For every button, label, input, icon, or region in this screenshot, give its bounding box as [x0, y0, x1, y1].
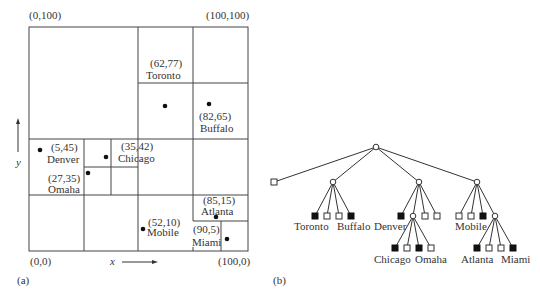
leaf-miami — [510, 245, 516, 251]
label-atlanta: Atlanta — [201, 205, 233, 217]
tree-label-buffalo: Buffalo — [337, 220, 371, 232]
label-denver: Denver — [47, 153, 80, 165]
node-sw — [416, 179, 422, 185]
point-toronto — [163, 104, 168, 109]
label-omaha: Omaha — [48, 183, 80, 195]
point-denver — [38, 148, 43, 153]
label-buffalo: Buffalo — [200, 122, 234, 134]
label-miami: Miami — [192, 236, 221, 248]
corner-bottom-right: (100,0) — [218, 255, 250, 268]
y-axis-arrowhead-icon — [16, 118, 20, 124]
leaf-omaha — [416, 245, 422, 251]
label-toronto: Toronto — [146, 69, 181, 81]
point-chicago — [104, 155, 109, 160]
node-se-ne — [492, 213, 498, 219]
tree-label-mobile: Mobile — [455, 220, 487, 232]
x-axis-label: x — [109, 255, 115, 267]
caption-b: (b) — [273, 274, 286, 287]
tree-edges — [274, 147, 513, 248]
node-ne — [330, 179, 336, 185]
node-root — [373, 144, 379, 150]
label-mobile: Mobile — [147, 226, 179, 238]
point-mobile — [141, 227, 146, 232]
label-chicago: Chicago — [118, 152, 155, 164]
node-sw-ne — [410, 213, 416, 219]
caption-a: (a) — [17, 274, 30, 287]
tree-empty-leaves — [271, 179, 504, 251]
city-labels: (62,77) Toronto (82,65) Buffalo (5,45) D… — [47, 57, 235, 248]
leaf-atlanta — [474, 245, 480, 251]
coords-miami: (90,5) — [193, 223, 220, 236]
corner-top-left: (0,100) — [29, 9, 61, 22]
tree-label-denver: Denver — [374, 220, 407, 232]
leaf-buffalo — [348, 213, 354, 219]
leaf-chicago — [392, 245, 398, 251]
pr-quadtree-figure: (62,77) Toronto (82,65) Buffalo (5,45) D… — [0, 0, 540, 300]
leaf-denver — [398, 213, 404, 219]
tree-label-toronto: Toronto — [294, 220, 329, 232]
leaf-toronto — [312, 213, 318, 219]
leaf-mobile — [480, 213, 486, 219]
tree-label-omaha: Omaha — [415, 253, 447, 265]
tree-label-atlanta: Atlanta — [461, 253, 493, 265]
tree-leaf-labels: Toronto Buffalo Denver Chicago Omaha Mob… — [294, 220, 530, 265]
x-axis-arrowhead-icon — [152, 260, 158, 264]
leaf-nw-empty — [271, 179, 277, 185]
corner-top-right: (100,100) — [206, 9, 249, 22]
point-buffalo — [207, 102, 212, 107]
tree-label-miami: Miami — [501, 253, 530, 265]
point-omaha — [86, 171, 91, 176]
node-se — [474, 179, 480, 185]
tree-label-chicago: Chicago — [374, 253, 411, 265]
corner-bottom-left: (0,0) — [30, 255, 51, 268]
y-axis-label: y — [15, 156, 21, 168]
point-miami — [225, 237, 230, 242]
